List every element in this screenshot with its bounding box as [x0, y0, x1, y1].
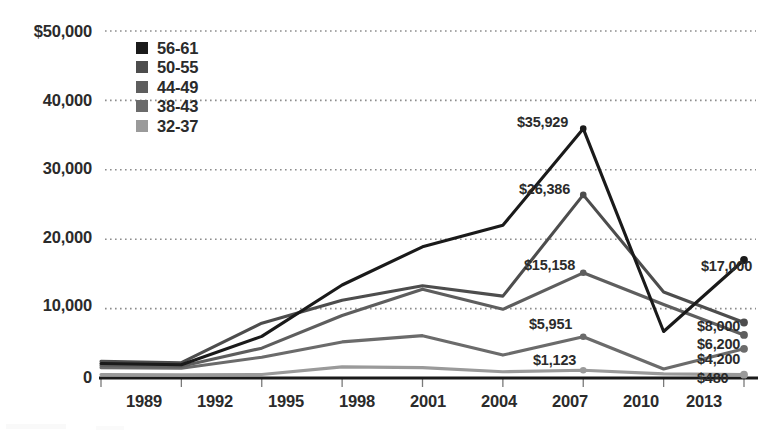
legend-item-44-49: 44-49: [136, 77, 198, 97]
y-axis-label: 10,000: [0, 296, 92, 315]
x-axis-label: 2001: [396, 392, 460, 411]
chart-legend: 56-6150-5544-4938-4332-37: [136, 38, 198, 136]
series-line-50-55: [101, 195, 744, 363]
data-point-peak-56-61: [580, 125, 587, 132]
legend-label: 32-37: [157, 118, 198, 135]
legend-swatch-icon: [136, 100, 148, 112]
x-axis-label: 1998: [325, 392, 389, 411]
y-axis-label: 0: [0, 368, 92, 387]
legend-swatch-icon: [136, 81, 148, 93]
legend-label: 50-55: [157, 59, 198, 76]
x-axis-label: 1995: [254, 392, 318, 411]
legend-swatch-icon: [136, 61, 148, 73]
series-line-56-61: [101, 129, 744, 365]
legend-item-32-37: 32-37: [136, 116, 198, 136]
peak-value-label-44-49: $15,158: [524, 257, 575, 273]
legend-label: 38-43: [157, 98, 198, 115]
x-axis-label: 2007: [538, 392, 602, 411]
peak-value-label-38-43: $5,951: [529, 316, 572, 332]
data-point-peak-38-43: [580, 333, 587, 340]
data-point-end-32-37: [740, 371, 748, 379]
data-point-end-50-55: [740, 319, 748, 327]
x-axis-label: 2004: [467, 392, 531, 411]
y-axis-label: 30,000: [0, 159, 92, 178]
legend-item-56-61: 56-61: [136, 38, 198, 58]
end-value-label-38-43: $4,200: [697, 351, 740, 367]
end-value-label-44-49: $6,200: [697, 336, 740, 352]
legend-swatch-icon: [136, 120, 148, 132]
legend-swatch-icon: [136, 42, 148, 54]
peak-value-label-50-55: $26,386: [519, 181, 570, 197]
x-axis-label: 2010: [609, 392, 673, 411]
legend-label: 56-61: [157, 40, 198, 57]
legend-item-50-55: 50-55: [136, 58, 198, 78]
line-chart: $50,00040,00030,00020,00010,0000 1989199…: [0, 0, 760, 438]
data-point-peak-44-49: [580, 270, 587, 277]
x-axis-label: 2013: [672, 392, 736, 411]
data-point-end-44-49: [740, 331, 748, 339]
x-axis-label: 1989: [112, 392, 176, 411]
plot-area: [0, 0, 760, 438]
end-value-label-56-61: $17,000: [701, 258, 752, 274]
data-point-end-38-43: [740, 345, 748, 353]
x-axis-label: 1992: [183, 392, 247, 411]
peak-value-label-56-61: $35,929: [517, 114, 568, 130]
data-point-peak-32-37: [580, 367, 587, 374]
y-axis-label: 40,000: [0, 91, 92, 110]
end-value-label-32-37: $480: [697, 370, 728, 386]
data-point-peak-50-55: [580, 192, 587, 199]
peak-value-label-32-37: $1,123: [533, 352, 576, 368]
y-axis-label: 20,000: [0, 228, 92, 247]
y-axis-label: $50,000: [0, 22, 92, 41]
legend-item-38-43: 38-43: [136, 97, 198, 117]
legend-label: 44-49: [157, 79, 198, 96]
end-value-label-50-55: $8,000: [697, 318, 740, 334]
series-line-32-37: [101, 367, 744, 375]
